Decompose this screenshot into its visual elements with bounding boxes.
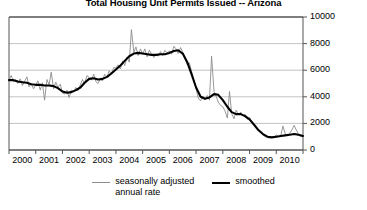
x-tick-label: 2009: [248, 155, 278, 165]
y-tick-label: 4000: [310, 91, 330, 101]
y-tick-label: 8000: [310, 38, 330, 48]
legend-label: smoothed: [235, 176, 275, 187]
legend-label-line1: smoothed: [235, 176, 275, 186]
legend-label-line1: seasonally adjusted: [115, 176, 194, 186]
x-tick-label: 2006: [168, 155, 198, 165]
x-tick-label: 2007: [194, 155, 224, 165]
legend-swatch-line-icon: [92, 182, 110, 183]
legend-label-line2: annual rate: [115, 187, 160, 197]
y-tick-label: 2000: [310, 117, 330, 127]
x-tick-label: 2004: [114, 155, 144, 165]
y-axis-ticks: [303, 17, 307, 150]
x-tick-label: 2001: [34, 155, 64, 165]
y-tick-label: 6000: [310, 64, 330, 74]
x-tick-label: 2005: [141, 155, 171, 165]
legend-swatch-line-icon: [212, 182, 230, 184]
chart-legend: seasonally adjusted annual rate smoothed: [0, 176, 367, 198]
legend-label: seasonally adjusted annual rate: [115, 176, 194, 198]
chart-container: Total Housing Unit Permits Issued -- Ari…: [0, 0, 367, 210]
x-tick-label: 2000: [7, 155, 37, 165]
series-seasonally-adjusted: [9, 30, 303, 138]
x-tick-label: 2008: [221, 155, 251, 165]
x-tick-label: 2010: [275, 155, 305, 165]
x-tick-label: 2002: [61, 155, 91, 165]
x-axis-ticks: [9, 150, 303, 154]
y-tick-label: 10000: [310, 11, 335, 21]
legend-item-seasonally-adjusted: seasonally adjusted annual rate: [92, 176, 194, 198]
x-tick-label: 2003: [88, 155, 118, 165]
y-tick-label: 0: [310, 144, 315, 154]
series-smoothed: [9, 50, 303, 137]
legend-item-smoothed: smoothed: [212, 176, 275, 187]
